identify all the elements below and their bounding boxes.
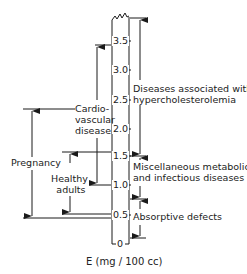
tick-3.5: 3.5 xyxy=(112,36,129,46)
tick-3.0: 3.0 xyxy=(112,65,129,75)
label-pregnancy: Pregnancy xyxy=(11,157,61,168)
tick-1.0: 1.0 xyxy=(112,180,129,190)
tick-1.5: 1.5 xyxy=(112,151,129,161)
label-absorptive-defects: Absorptive defects xyxy=(133,211,222,222)
axis-break-icon xyxy=(112,13,129,20)
tick-0.5: 0.5 xyxy=(112,210,129,220)
label-cardiovascular: Cardio- vascular disease xyxy=(75,103,115,136)
axis-label: E (mg / 100 cc) xyxy=(86,256,162,267)
tick-0: 0 xyxy=(116,239,124,249)
label-misc-metabolic: Miscellaneous metabolic and infectious d… xyxy=(133,161,247,183)
label-healthy-adults: Healthy adults xyxy=(51,173,88,195)
label-hypercholesterolemia: Diseases associated with hypercholestero… xyxy=(133,83,247,105)
